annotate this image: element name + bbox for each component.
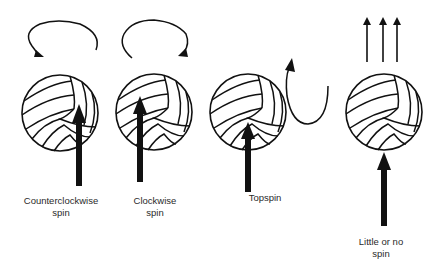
volleyball-icon [22,75,98,151]
contact-arrow-shaft [137,112,143,182]
panel-no-spin [346,17,422,226]
topspin-loop-arrow-icon [286,68,328,124]
contact-arrow-shaft [381,166,387,226]
contact-arrow-shaft [245,136,251,192]
straight-up-arrows-icon [363,17,401,62]
label-counterclockwise: Counterclockwise spin [24,195,98,219]
contact-arrow-head-icon [377,152,391,170]
label-line-1: Clockwise [134,195,177,207]
volleyball-icon [346,74,422,150]
contact-arrow-shaft [76,120,82,186]
label-line-1: Counterclockwise [24,195,98,207]
panel-counterclockwise [22,21,98,186]
label-clockwise: Clockwise spin [134,195,177,219]
counterclockwise-rotation-arrow-icon [28,21,97,54]
label-line-2: spin [134,207,177,219]
label-no-spin: Little or no spin [359,236,403,260]
label-topspin: Topspin [249,192,282,204]
volleyball-icon [116,74,192,150]
panel-clockwise [116,20,192,182]
spin-diagram [0,0,439,269]
label-line-1: Little or no [359,236,403,248]
panel-topspin [210,58,328,192]
label-line-2: spin [359,248,403,260]
label-line-2: spin [24,207,98,219]
topspin-arrowhead-icon [285,58,295,72]
label-line-1: Topspin [249,192,282,204]
clockwise-rotation-arrow-icon [122,20,187,58]
